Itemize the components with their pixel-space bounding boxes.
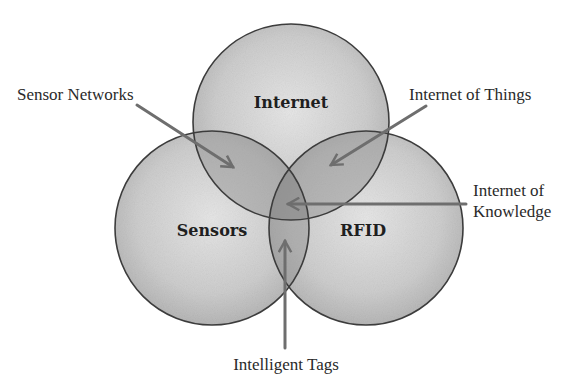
callout-internet-of-knowledge-line1: Internet of: [473, 181, 545, 200]
label-rfid: RFID: [340, 221, 386, 240]
callout-internet-of-knowledge-line2: Knowledge: [473, 202, 551, 221]
venn-diagram: Internet Sensors RFID Sensor Networks In…: [0, 0, 586, 388]
callout-internet-of-things: Internet of Things: [409, 85, 531, 104]
callout-intelligent-tags: Intelligent Tags: [233, 355, 339, 374]
label-sensors: Sensors: [177, 221, 247, 240]
callout-sensor-networks: Sensor Networks: [17, 85, 134, 104]
label-internet: Internet: [254, 93, 329, 112]
